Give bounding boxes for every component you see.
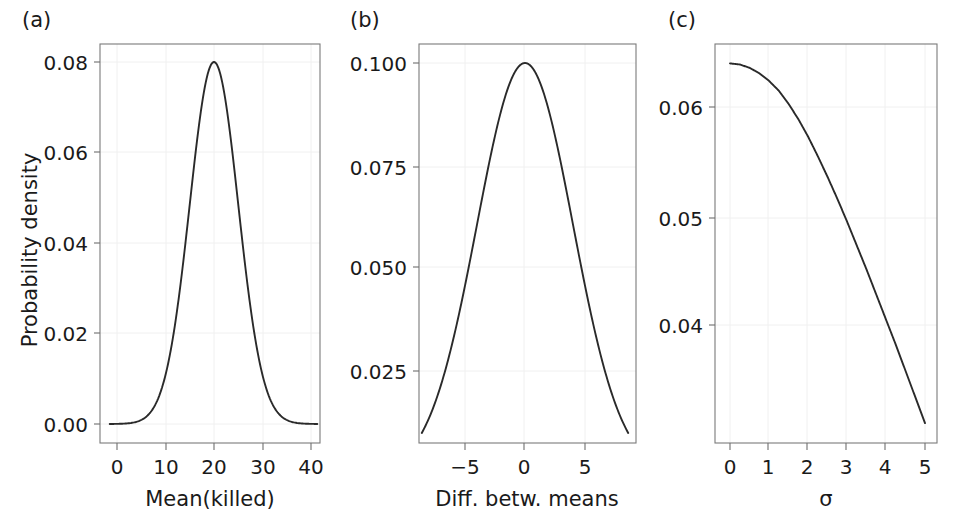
- panel-a-ytick-0.08: 0.08: [20, 51, 88, 75]
- panel-c-xtick-3: 3: [826, 455, 866, 479]
- panel-c-curve: [730, 63, 925, 423]
- panel-b-xaxis-title: Diff. betw. means: [412, 487, 642, 511]
- panel-a-gridlines: [100, 44, 320, 443]
- panel-a: (a): [0, 0, 330, 527]
- panel-a-ticks: [94, 62, 311, 450]
- panel-c-gridlines: [715, 44, 937, 443]
- panel-a-xtick-10: 10: [146, 455, 186, 479]
- panel-c-plot: [640, 0, 964, 527]
- panel-b-curve: [422, 63, 628, 433]
- panel-a-yaxis-title: Probability density: [18, 80, 42, 420]
- panel-b: (b) 0.100 0.: [320, 0, 650, 527]
- panel-c-xaxis-title: σ: [715, 487, 937, 511]
- panel-a-xtick-0: 0: [97, 455, 137, 479]
- panel-c-ytick-0.04: 0.04: [640, 314, 703, 338]
- panel-c-xtick-5: 5: [905, 455, 945, 479]
- panel-b-gridlines: [419, 44, 636, 443]
- panel-b-xtick-minus5: −5: [445, 455, 485, 479]
- panel-c-xtick-2: 2: [787, 455, 827, 479]
- panel-c-xtick-4: 4: [865, 455, 905, 479]
- panel-b-ytick-0.075: 0.075: [325, 156, 407, 180]
- panel-b-xtick-0: 0: [504, 455, 544, 479]
- panel-a-plot: [0, 0, 330, 527]
- panel-b-ytick-0.050: 0.050: [325, 256, 407, 280]
- panel-c-xtick-0: 0: [710, 455, 750, 479]
- panel-c-ytick-0.06: 0.06: [640, 96, 703, 120]
- panel-b-xtick-5: 5: [565, 455, 605, 479]
- panel-b-frame: [419, 44, 636, 443]
- panel-a-xaxis-title: Mean(killed): [100, 487, 320, 511]
- panel-b-ytick-0.100: 0.100: [325, 52, 407, 76]
- panel-b-ytick-0.025: 0.025: [325, 360, 407, 384]
- panel-a-xtick-30: 30: [243, 455, 283, 479]
- panel-c: (c): [640, 0, 964, 527]
- panel-c-ytick-0.05: 0.05: [640, 207, 703, 231]
- panel-c-xtick-1: 1: [748, 455, 788, 479]
- panel-a-xtick-20: 20: [194, 455, 234, 479]
- panel-c-frame: [715, 44, 937, 443]
- panel-c-ticks: [709, 107, 925, 450]
- figure-three-panel-distributions: (a): [0, 0, 964, 527]
